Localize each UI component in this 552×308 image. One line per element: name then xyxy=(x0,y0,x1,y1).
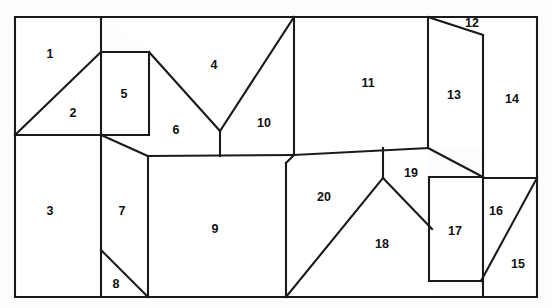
region-label-9: 9 xyxy=(212,222,219,236)
edge-h-156 xyxy=(148,155,294,156)
region-label-3: 3 xyxy=(47,204,54,218)
region-label-10: 10 xyxy=(257,116,271,130)
region-label-20: 20 xyxy=(317,190,331,204)
region-label-15: 15 xyxy=(511,257,525,271)
region-label-2: 2 xyxy=(70,106,77,120)
region-label-5: 5 xyxy=(121,87,128,101)
region-label-16: 16 xyxy=(489,204,503,218)
region-label-17: 17 xyxy=(448,224,462,238)
region-3[interactable] xyxy=(15,135,101,297)
region-label-7: 7 xyxy=(119,204,126,218)
region-label-12: 12 xyxy=(465,16,479,30)
region-label-14: 14 xyxy=(505,92,519,106)
floorplan-diagram: 1234567891011121314151617181920 xyxy=(0,0,552,308)
region-label-1: 1 xyxy=(47,47,54,61)
region-label-11: 11 xyxy=(361,76,374,90)
floorplan-svg: 1234567891011121314151617181920 xyxy=(0,0,552,308)
region-13[interactable] xyxy=(428,17,483,148)
region-label-8: 8 xyxy=(113,277,120,291)
region-label-19: 19 xyxy=(404,166,418,180)
region-label-18: 18 xyxy=(375,237,389,251)
region-label-6: 6 xyxy=(173,123,180,137)
region-label-4: 4 xyxy=(211,58,218,72)
region-label-13: 13 xyxy=(447,88,461,102)
